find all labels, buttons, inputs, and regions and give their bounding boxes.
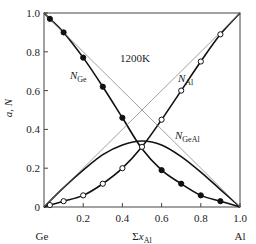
data-point-N_Ge [81,55,86,60]
data-point-N_Ge [218,199,223,204]
data-point-N_Al [47,202,52,207]
data-point-N_Ge [120,115,125,120]
data-point-N_Ge [198,193,203,198]
data-point-N_Ge [159,168,164,173]
data-point-N_Ge [61,30,66,35]
y-tick-label: 0.4 [26,123,40,135]
y-tick-label: 0.6 [26,85,40,97]
series-label-N_GeAl: NGeAl [174,129,200,144]
data-point-N_Al [81,193,86,198]
y-axis-label: a, N [2,98,14,117]
data-point-N_Ge [179,181,184,186]
x-end-label-right: Al [235,230,246,242]
data-point-N_Ge [47,16,52,21]
data-point-N_Al [159,117,164,122]
y-tick-label: 0.2 [26,162,40,174]
y-tick-label: 0 [35,201,41,213]
data-point-N_Al [120,166,125,171]
chart: 00.20.40.60.81.00.20.40.60.81.0 GeAlΣxAl… [0,0,256,244]
x-axis-label: ΣxAl [132,230,152,244]
data-point-N_Al [198,59,203,64]
x-end-label-left: Ge [36,230,49,242]
y-tick-label: 1.0 [26,7,40,19]
data-point-N_Ge [100,84,105,89]
series-lines [44,13,240,207]
curve-N_GeAl [44,141,240,207]
x-tick-label: 0.4 [116,212,130,224]
x-tick-label: 0.8 [194,212,208,224]
data-point-N_Al [100,181,105,186]
data-point-N_Al [218,32,223,37]
data-point-N_Al [139,144,144,149]
x-tick-label: 1.0 [233,212,247,224]
data-point-N_Al [61,199,66,204]
series-label-N_Ge: NGe [69,69,87,84]
y-tick-label: 0.8 [26,46,40,58]
temperature-annotation: 1200K [120,52,150,64]
x-tick-label: 0.2 [76,212,90,224]
x-tick-label: 0.6 [155,212,169,224]
data-point-N_Al [179,88,184,93]
